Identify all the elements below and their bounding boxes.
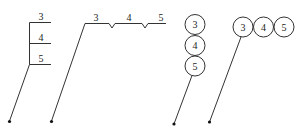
leader-dot	[172, 122, 175, 125]
leader-line	[10, 65, 30, 122]
figure-notched-line: 3 4 5	[50, 12, 166, 123]
figure-stacked-lines: 3 4 5	[8, 11, 51, 123]
item-label-5: 5	[39, 53, 44, 64]
leader-dot	[50, 120, 53, 123]
item-label-5: 5	[159, 12, 164, 23]
leader-dot	[8, 120, 11, 123]
item-label-3: 3	[39, 11, 44, 22]
item-label-4: 4	[127, 12, 132, 23]
item-label-4: 4	[193, 40, 198, 51]
item-label-3: 3	[241, 22, 246, 33]
item-label-3: 3	[94, 12, 99, 23]
item-label-4: 4	[261, 22, 266, 33]
item-label-5: 5	[282, 22, 287, 33]
leader-line	[174, 76, 192, 125]
notched-label-line	[85, 24, 166, 29]
leader-line	[210, 37, 242, 122]
leader-line	[52, 24, 86, 122]
figure-row-circles: 3 4 5	[208, 17, 294, 124]
diagram-canvas: 3 4 5 3 4 5 3 4 5 3 4 5	[0, 0, 302, 137]
item-label-5: 5	[193, 61, 198, 72]
item-label-4: 4	[39, 32, 44, 43]
figure-stacked-circles: 3 4 5	[172, 15, 205, 126]
item-label-3: 3	[193, 19, 198, 30]
leader-dot	[208, 120, 211, 123]
